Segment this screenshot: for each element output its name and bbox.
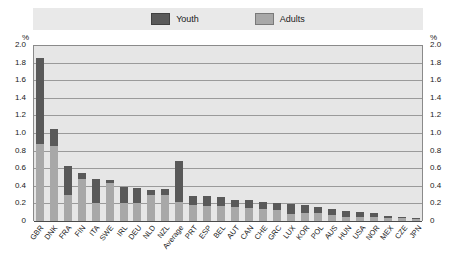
bar-column[interactable] (50, 45, 58, 221)
bar-column[interactable] (147, 45, 155, 221)
x-axis-tick: NOR (371, 223, 379, 266)
bar-segment-adults (328, 215, 336, 221)
bar-column[interactable] (273, 45, 281, 221)
x-axis-label: FIN (74, 224, 87, 238)
bar-segment-adults (342, 217, 350, 221)
y-tick-left: 1.4 (15, 94, 26, 102)
bar-segment-adults (231, 207, 239, 221)
x-axis-label: AUS (324, 224, 339, 241)
bar-segment-adults (147, 195, 155, 221)
bar-segment-adults (92, 203, 100, 221)
x-axis-label: PRT (184, 224, 199, 240)
bar-segment-adults (36, 144, 44, 221)
bar-column[interactable] (175, 45, 183, 221)
x-axis-tick: USA (357, 223, 365, 266)
bar-segment-youth (133, 188, 141, 202)
x-axis-tick: ESP (203, 223, 211, 266)
x-axis-tick: SWE (105, 223, 113, 266)
bar-segment-adults (120, 203, 128, 221)
y-tick-right: 2.0 (430, 41, 441, 49)
bar-segment-youth (245, 200, 253, 208)
bar-segment-adults (301, 213, 309, 221)
y-tick-right: 1.8 (430, 59, 441, 67)
bar-segment-youth (36, 58, 44, 143)
bar-column[interactable] (398, 45, 406, 221)
bar-segment-adults (203, 206, 211, 221)
x-axis-tick: POL (315, 223, 323, 266)
bar-column[interactable] (328, 45, 336, 221)
bar-segment-adults (273, 210, 281, 221)
y-axis-right: 2.01.81.61.41.21.00.80.60.40.20 (426, 45, 456, 221)
bar-column[interactable] (64, 45, 72, 221)
bar-column[interactable] (203, 45, 211, 221)
bar-segment-youth (203, 196, 211, 206)
bar-column[interactable] (161, 45, 169, 221)
bar-column[interactable] (231, 45, 239, 221)
bar-column[interactable] (259, 45, 267, 221)
x-axis-label: AUT (226, 224, 241, 240)
bar-column[interactable] (245, 45, 253, 221)
x-axis-label: NLD (142, 224, 157, 240)
bar-column[interactable] (370, 45, 378, 221)
y-tick-left: 1.8 (15, 59, 26, 67)
x-axis-label: SWE (98, 224, 114, 242)
y-tick-right: 1.4 (430, 94, 441, 102)
x-axis-label: ESP (198, 224, 213, 240)
chart-legend: Youth Adults (33, 8, 423, 30)
y-tick-right: 0 (430, 217, 434, 225)
bar-segment-youth (189, 196, 197, 206)
x-axis-tick: FRA (63, 223, 71, 266)
bar-segment-youth (120, 187, 128, 203)
bar-segment-adults (412, 219, 420, 221)
x-axis-tick: HUN (343, 223, 351, 266)
x-axis-label: CZE (394, 224, 409, 240)
legend-label-youth: Youth (176, 15, 199, 24)
bar-column[interactable] (120, 45, 128, 221)
bar-segment-youth (50, 129, 58, 146)
x-axis-label: DEU (127, 224, 143, 241)
x-axis-tick: PRT (189, 223, 197, 266)
x-axis-label: JPN (408, 224, 423, 240)
x-axis-tick: GBR (35, 223, 43, 266)
bar-segment-adults (175, 202, 183, 221)
bar-column[interactable] (342, 45, 350, 221)
bar-segment-adults (384, 218, 392, 221)
x-axis-tick: CAN (245, 223, 253, 266)
x-axis-tick: GRC (273, 223, 281, 266)
x-axis-label: POL (310, 224, 325, 240)
bar-column[interactable] (36, 45, 44, 221)
bar-segment-youth (259, 202, 267, 209)
bar-column[interactable] (412, 45, 420, 221)
bar-column[interactable] (301, 45, 309, 221)
bar-column[interactable] (106, 45, 114, 221)
bar-column[interactable] (217, 45, 225, 221)
bar-series-container (34, 45, 422, 221)
x-axis-tick: AUT (231, 223, 239, 266)
bar-column[interactable] (384, 45, 392, 221)
bar-column[interactable] (189, 45, 197, 221)
bar-column[interactable] (133, 45, 141, 221)
bar-column[interactable] (92, 45, 100, 221)
x-axis-label: HUN (337, 224, 353, 241)
y-tick-right: 0.8 (430, 147, 441, 155)
bar-column[interactable] (78, 45, 86, 221)
x-axis-tick: MEX (385, 223, 393, 266)
y-tick-left: 0.6 (15, 164, 26, 172)
bar-segment-adults (189, 205, 197, 221)
x-axis-label: LUX (282, 224, 297, 240)
legend-item-adults: Adults (255, 13, 305, 25)
x-axis-label: CAN (239, 224, 255, 241)
bar-column[interactable] (287, 45, 295, 221)
bar-column[interactable] (314, 45, 322, 221)
x-axis-tick: NLD (147, 223, 155, 266)
bar-column[interactable] (356, 45, 364, 221)
legend-item-youth: Youth (151, 13, 199, 25)
x-axis-tick: DNK (49, 223, 57, 266)
x-axis-label: FRA (58, 224, 73, 240)
bar-segment-adults (370, 217, 378, 221)
x-axis-tick: AUS (329, 223, 337, 266)
y-tick-left: 0.2 (15, 199, 26, 207)
x-axis-tick: KOR (301, 223, 309, 266)
bar-segment-adults (287, 214, 295, 221)
bar-segment-adults (217, 206, 225, 221)
